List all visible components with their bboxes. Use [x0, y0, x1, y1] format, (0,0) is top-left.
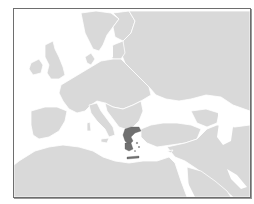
land-sardinia: [87, 122, 91, 131]
greece-islands: [138, 146, 139, 147]
map-canvas: [14, 9, 250, 197]
greece-islands: [134, 150, 135, 151]
locator-map-frame: [13, 8, 251, 198]
greece-islands: [136, 142, 138, 144]
